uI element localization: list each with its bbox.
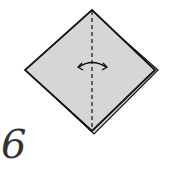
step-number: 6: [1, 124, 26, 164]
paper-diamond: [25, 10, 155, 131]
